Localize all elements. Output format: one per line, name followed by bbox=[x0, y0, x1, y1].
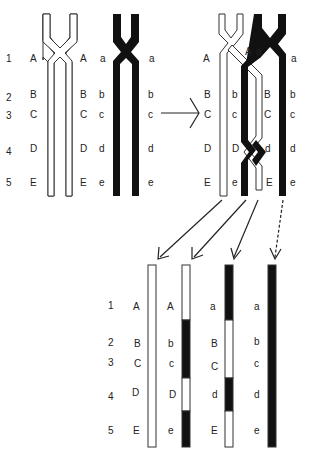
svg-text:a: a bbox=[210, 301, 216, 312]
svg-text:a: a bbox=[291, 53, 297, 64]
product-strand-1 bbox=[148, 265, 156, 447]
svg-text:E: E bbox=[211, 425, 218, 436]
svg-text:C: C bbox=[204, 109, 211, 120]
svg-text:C: C bbox=[30, 109, 37, 120]
svg-text:E: E bbox=[266, 177, 273, 188]
svg-text:b: b bbox=[290, 89, 296, 100]
svg-text:c: c bbox=[290, 109, 295, 120]
svg-text:c: c bbox=[169, 358, 174, 369]
svg-text:a: a bbox=[254, 301, 260, 312]
svg-text:A: A bbox=[80, 53, 87, 64]
svg-text:2: 2 bbox=[6, 92, 12, 103]
svg-text:b: b bbox=[99, 89, 105, 100]
svg-text:B: B bbox=[264, 89, 271, 100]
svg-text:b: b bbox=[254, 336, 260, 347]
svg-text:E: E bbox=[30, 177, 37, 188]
svg-text:5: 5 bbox=[108, 425, 114, 436]
svg-text:A: A bbox=[203, 53, 210, 64]
separation-arrows bbox=[158, 200, 283, 259]
svg-text:d: d bbox=[254, 389, 260, 400]
svg-text:D: D bbox=[30, 143, 37, 154]
svg-text:c: c bbox=[99, 109, 104, 120]
svg-text:D: D bbox=[169, 389, 176, 400]
svg-text:d: d bbox=[99, 143, 105, 154]
product-strand-3 bbox=[225, 265, 233, 447]
product-strand-2 bbox=[182, 265, 190, 447]
crossing-over-diagram: 1 2 3 4 5 A B C D E A B C D E a b c d e … bbox=[0, 0, 309, 461]
svg-text:1: 1 bbox=[6, 53, 12, 64]
svg-text:e: e bbox=[99, 177, 105, 188]
svg-text:C: C bbox=[264, 109, 271, 120]
svg-text:b: b bbox=[148, 89, 154, 100]
svg-text:e: e bbox=[148, 177, 154, 188]
svg-text:B: B bbox=[80, 89, 87, 100]
svg-text:4: 4 bbox=[108, 391, 114, 402]
svg-text:A: A bbox=[133, 301, 140, 312]
svg-text:1: 1 bbox=[108, 300, 114, 311]
svg-text:c: c bbox=[232, 109, 237, 120]
svg-text:c: c bbox=[254, 358, 259, 369]
svg-text:D: D bbox=[204, 143, 211, 154]
svg-text:3: 3 bbox=[108, 357, 114, 368]
svg-text:B: B bbox=[30, 89, 37, 100]
svg-text:c: c bbox=[148, 109, 153, 120]
svg-text:d: d bbox=[212, 389, 218, 400]
svg-text:e: e bbox=[232, 177, 238, 188]
svg-text:D: D bbox=[80, 143, 87, 154]
svg-text:e: e bbox=[168, 425, 174, 436]
svg-text:b: b bbox=[168, 338, 174, 349]
row-numbers: 1 2 3 4 5 bbox=[6, 53, 12, 188]
svg-text:E: E bbox=[133, 425, 140, 436]
svg-text:a: a bbox=[256, 46, 262, 57]
svg-text:3: 3 bbox=[6, 110, 12, 121]
svg-text:a: a bbox=[100, 53, 106, 64]
svg-text:d: d bbox=[148, 143, 154, 154]
svg-text:A: A bbox=[245, 46, 252, 57]
svg-text:C: C bbox=[134, 358, 141, 369]
svg-text:d: d bbox=[290, 143, 296, 154]
svg-text:d: d bbox=[265, 143, 271, 154]
svg-text:C: C bbox=[80, 109, 87, 120]
svg-text:a: a bbox=[149, 53, 155, 64]
panel2-black-outer bbox=[241, 14, 286, 196]
svg-text:B: B bbox=[211, 338, 218, 349]
svg-text:D: D bbox=[232, 143, 239, 154]
right-arrow-icon bbox=[161, 98, 199, 128]
svg-text:A: A bbox=[167, 301, 174, 312]
product-strand-4 bbox=[268, 265, 276, 447]
svg-text:2: 2 bbox=[108, 337, 114, 348]
svg-text:e: e bbox=[254, 425, 260, 436]
svg-text:E: E bbox=[80, 177, 87, 188]
white-chromosome-outline bbox=[43, 14, 77, 196]
svg-text:4: 4 bbox=[6, 146, 12, 157]
svg-text:C: C bbox=[211, 361, 218, 372]
svg-text:A: A bbox=[30, 53, 37, 64]
panel2-white-outer bbox=[219, 14, 243, 196]
svg-text:E: E bbox=[204, 177, 211, 188]
svg-text:b: b bbox=[232, 89, 238, 100]
svg-text:e: e bbox=[290, 177, 296, 188]
svg-text:D: D bbox=[132, 387, 139, 398]
svg-text:B: B bbox=[134, 338, 141, 349]
black-chromosome bbox=[113, 14, 139, 196]
svg-text:5: 5 bbox=[6, 177, 12, 188]
svg-text:B: B bbox=[204, 89, 211, 100]
